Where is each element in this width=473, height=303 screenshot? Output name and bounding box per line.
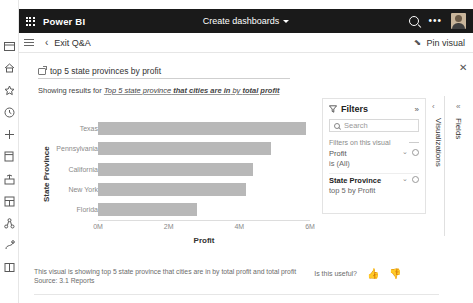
y-axis-tick-label: New York xyxy=(68,186,98,193)
database-icon[interactable] xyxy=(3,151,15,163)
x-axis-label: Profit xyxy=(98,236,310,245)
bar[interactable] xyxy=(98,122,306,135)
y-axis-label: State Province xyxy=(42,134,56,214)
showing-part2: that cities are in xyxy=(171,86,230,95)
filters-title: Filters xyxy=(341,104,368,114)
app-launcher-icon[interactable] xyxy=(19,17,41,26)
filter-card[interactable]: Profitis (All)⌄ xyxy=(329,147,419,170)
filters-section-label: Filters on this visual xyxy=(329,139,390,146)
right-rail: « ‹ Fields Visualizations xyxy=(428,98,473,233)
filter-card-list: Profitis (All)⌄State Provincetop 5 by Pr… xyxy=(323,147,425,197)
x-axis-line xyxy=(98,220,310,221)
apps-grid-icon[interactable] xyxy=(3,195,15,207)
home-icon[interactable] xyxy=(3,62,15,74)
power-bi-qna-screen: Power BI Create dashboards ••• ‹ Exit Q&… xyxy=(0,0,473,303)
chevron-down-icon[interactable]: ⌄ xyxy=(402,175,408,183)
search-icon xyxy=(334,123,340,129)
footer-divider xyxy=(34,294,439,295)
showing-part4: total profit xyxy=(242,86,279,95)
eraser-icon[interactable] xyxy=(412,176,419,183)
header-actions: ••• xyxy=(409,13,473,29)
bar[interactable] xyxy=(98,203,197,216)
plus-icon[interactable] xyxy=(3,129,15,141)
filter-card-actions: ⌄ xyxy=(402,148,419,156)
fields-tab[interactable]: Fields xyxy=(454,118,463,139)
nav-toggle-icon[interactable] xyxy=(3,40,15,52)
filter-card-value: is (All) xyxy=(329,159,419,168)
clock-icon[interactable] xyxy=(3,107,15,119)
visualizations-tab[interactable]: Visualizations xyxy=(434,118,443,167)
y-axis-tick-labels: TexasPennsylvaniaCaliforniaNew YorkFlori… xyxy=(56,118,101,220)
x-axis-tick-label: 4M xyxy=(234,223,244,230)
filters-section-header: Filters on this visual xyxy=(329,139,419,146)
chevron-left-icon[interactable]: ‹ xyxy=(45,37,48,48)
y-axis-tick-label: Texas xyxy=(80,125,98,132)
pin-icon: ➦ xyxy=(412,36,425,49)
feedback-group: Is this useful? 👍 👎 xyxy=(314,268,401,279)
share-nodes-icon[interactable] xyxy=(3,218,15,230)
showing-prefix: Showing results for xyxy=(38,86,104,95)
filters-pane: Filters » Search Filters on this visual … xyxy=(322,98,426,214)
command-bar: ‹ Exit Q&A ➦ Pin visual xyxy=(19,33,473,53)
visual-footer: This visual is showing top 5 state provi… xyxy=(34,268,439,284)
close-icon[interactable]: ✕ xyxy=(459,62,467,73)
star-icon[interactable] xyxy=(3,84,15,96)
filters-header: Filters » xyxy=(323,99,425,117)
search-icon[interactable] xyxy=(409,16,419,26)
bar[interactable] xyxy=(98,183,246,196)
pin-visual-button[interactable]: ➦ Pin visual xyxy=(414,38,473,48)
x-axis-tick-label: 6M xyxy=(305,223,315,230)
qna-query-value: top 5 state provinces by profit xyxy=(50,66,161,76)
filters-search-placeholder: Search xyxy=(344,121,368,130)
chevron-down-icon[interactable] xyxy=(283,20,289,23)
hamburger-menu-icon[interactable] xyxy=(19,39,39,47)
showing-results-text: Showing results for Top 5 state province… xyxy=(38,86,280,95)
filters-search-input[interactable]: Search xyxy=(329,119,419,132)
bar-chart-visual[interactable]: State Province TexasPennsylvaniaCaliforn… xyxy=(34,100,320,260)
left-navigation-rail xyxy=(0,0,19,303)
y-axis-tick-label: California xyxy=(68,166,98,173)
header-title: Create dashboards xyxy=(203,16,280,26)
y-axis-tick-label: Pennsylvania xyxy=(56,145,98,152)
funnel-icon xyxy=(329,105,337,113)
filter-card-value: top 5 by Profit xyxy=(329,186,419,195)
feedback-label: Is this useful? xyxy=(314,270,357,277)
workspace-icon[interactable] xyxy=(3,262,15,274)
qna-box-icon xyxy=(38,68,46,75)
qna-query-input[interactable]: top 5 state provinces by profit xyxy=(38,64,290,79)
x-axis-tick-label: 2M xyxy=(164,223,174,230)
thumbs-up-icon[interactable]: 👍 xyxy=(367,268,379,279)
showing-part1: Top 5 state province xyxy=(104,86,171,95)
avatar[interactable] xyxy=(451,13,466,29)
double-chevron-left-icon[interactable]: « xyxy=(456,102,460,111)
exit-qna-button[interactable]: Exit Q&A xyxy=(54,38,91,48)
filter-card-actions: ⌄ xyxy=(402,175,419,183)
app-header: Power BI Create dashboards ••• xyxy=(19,9,473,33)
more-options-icon[interactable]: ••• xyxy=(428,18,442,24)
x-axis-tick-labels: 0M2M4M6M xyxy=(98,223,310,235)
bar[interactable] xyxy=(98,142,271,155)
bar[interactable] xyxy=(98,163,253,176)
y-axis-tick-label: Florida xyxy=(77,206,98,213)
header-title-group: Create dashboards xyxy=(19,16,473,26)
divider xyxy=(409,142,419,143)
brand-label: Power BI xyxy=(43,16,85,27)
filter-card[interactable]: State Provincetop 5 by Profit⌄ xyxy=(329,173,419,197)
chevron-left-icon[interactable]: ‹ xyxy=(432,102,435,111)
x-axis-tick-label: 0M xyxy=(93,223,103,230)
pin-visual-label: Pin visual xyxy=(426,38,465,48)
thumbs-down-icon[interactable]: 👎 xyxy=(389,268,401,279)
double-chevron-right-icon[interactable]: » xyxy=(415,105,419,114)
plot-area xyxy=(98,118,310,220)
eraser-icon[interactable] xyxy=(412,149,419,156)
chevron-down-icon[interactable]: ⌄ xyxy=(402,148,408,156)
goals-icon[interactable] xyxy=(3,173,15,185)
pipeline-icon[interactable] xyxy=(3,240,15,252)
showing-part3: by xyxy=(230,86,242,95)
